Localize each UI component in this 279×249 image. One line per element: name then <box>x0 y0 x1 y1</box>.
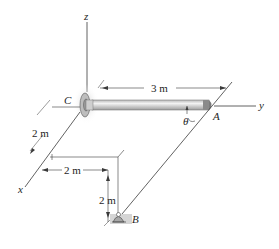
dimension-3m: 3 m <box>98 80 226 94</box>
dimension-2m-y: 2 m <box>42 164 108 222</box>
support-B: B <box>110 213 139 226</box>
point-C-label: C <box>64 94 72 106</box>
dimension-3m-label: 3 m <box>151 82 168 94</box>
z-axis-label: z <box>83 10 89 22</box>
y-axis-label: y <box>258 99 264 111</box>
dimension-2m-z-label: 2 m <box>99 194 116 206</box>
x-axis: x <box>17 112 80 195</box>
theta-label: θ <box>183 115 189 127</box>
point-A-label: A <box>212 110 220 122</box>
x-axis-label: x <box>17 183 23 195</box>
dimension-2m-y-label: 2 m <box>64 164 81 176</box>
point-B-label: B <box>132 213 139 225</box>
statics-diagram: z x y C 3 m <box>0 0 279 249</box>
dimension-2m-x-label: 2 m <box>32 127 49 139</box>
z-axis: z <box>83 10 89 92</box>
dimension-2m-x: 2 m <box>30 100 50 154</box>
y-axis: y <box>214 99 264 111</box>
rod-CA <box>92 100 212 110</box>
